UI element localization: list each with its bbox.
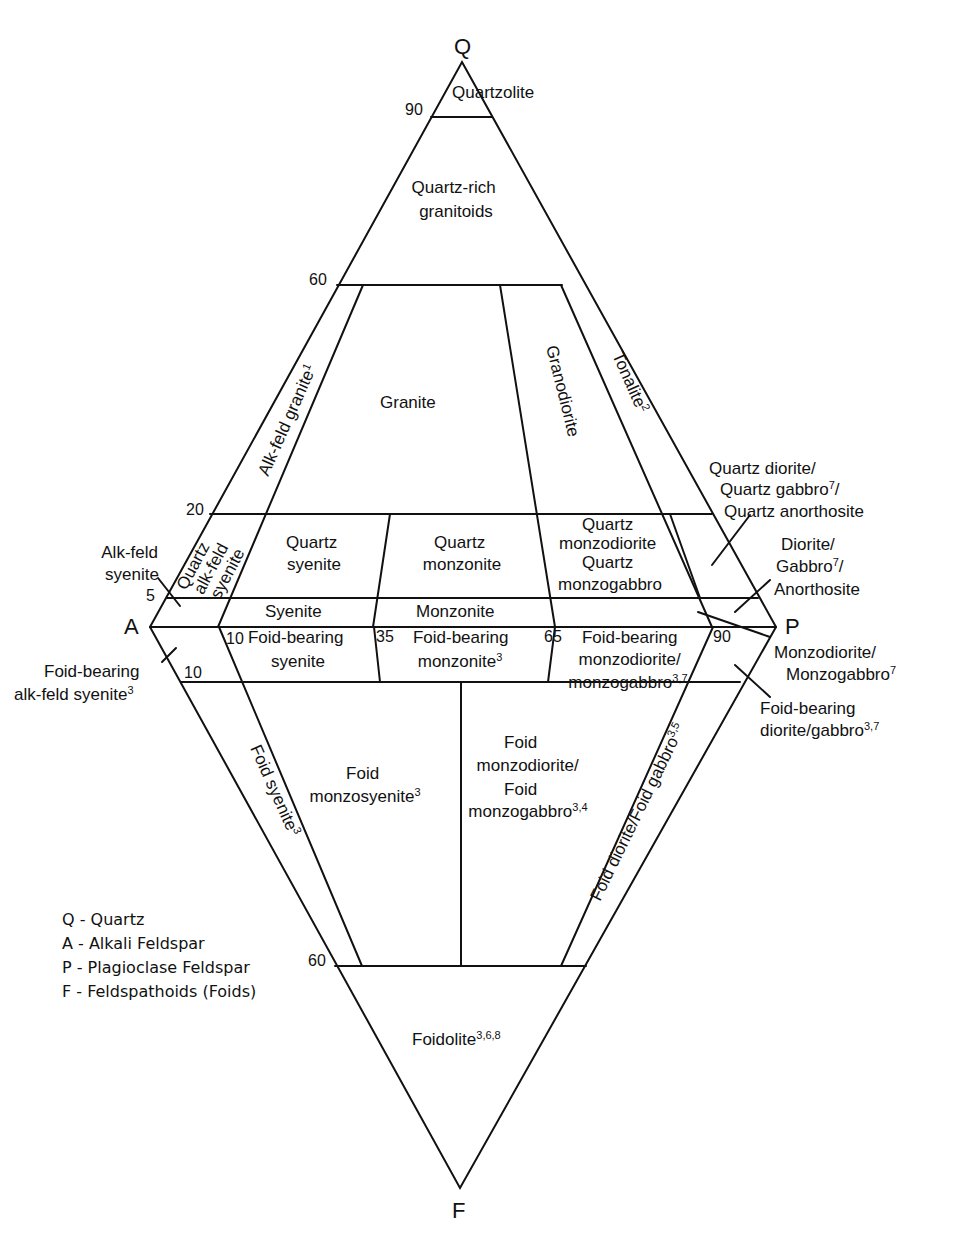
field-foid-bearing-monzodiorite: Foid-bearing monzodiorite/ monzogabbro3,… xyxy=(568,628,687,692)
tick-q60: 60 xyxy=(309,271,327,288)
qapf-diagram: Q A P F 90 60 20 5 10 35 65 90 10 60 Qua… xyxy=(0,0,956,1238)
callout-foid-bearing-alk-feld-syenite: Foid-bearing alk-feld syenite3 xyxy=(14,662,144,704)
field-foid-syenite: Foid syenite3 xyxy=(246,741,304,838)
tick-p35: 35 xyxy=(376,628,394,645)
field-quartz-rich-granitoids: Quartz-rich granitoids xyxy=(412,178,501,221)
callout-monzodiorite: Monzodiorite/ Monzogabbro7 xyxy=(774,643,896,684)
field-foid-bearing-syenite: Foid-bearing syenite xyxy=(248,628,348,671)
field-foid-monzodiorite: Foid monzodiorite/ Foid monzogabbro3,4 xyxy=(468,733,587,821)
field-granodiorite: Granodiorite xyxy=(542,343,583,438)
mineral-legend: Q - Quartz A - Alkali Feldspar P - Plagi… xyxy=(62,908,256,1004)
vertex-a: A xyxy=(124,614,139,639)
vertex-f: F xyxy=(452,1198,465,1223)
field-foidolite: Foidolite3,6,8 xyxy=(412,1029,501,1049)
field-quartz-syenite: Quartz syenite xyxy=(286,533,342,574)
tick-p10: 10 xyxy=(226,630,244,647)
field-quartz-monzodiorite: Quartz monzodiorite Quartz monzogabbro xyxy=(558,515,662,594)
legend-item-p: P - Plagioclase Feldspar xyxy=(62,956,256,980)
legend-item-a: A - Alkali Feldspar xyxy=(62,932,256,956)
callout-foid-bearing-diorite: Foid-bearing diorite/gabbro3,7 xyxy=(760,699,879,740)
field-quartz-alk-feld-syenite: Quartz alk-feld syenite xyxy=(173,528,250,609)
field-syenite: Syenite xyxy=(265,602,322,621)
tick-q5: 5 xyxy=(146,587,155,604)
callout-quartz-diorite: Quartz diorite/ Quartz gabbro7/ Quartz a… xyxy=(709,459,864,521)
callout-alk-feld-syenite: Alk-feld syenite xyxy=(101,543,162,584)
tick-p90: 90 xyxy=(713,628,731,645)
field-foid-bearing-monzonite: Foid-bearing monzonite3 xyxy=(413,628,513,671)
vertex-q: Q xyxy=(454,34,471,59)
field-labels: Quartzolite Quartz-rich granitoids Alk-f… xyxy=(173,83,689,1049)
tick-p65: 65 xyxy=(544,628,562,645)
field-foid-monzosyenite: Foid monzosyenite3 xyxy=(309,764,420,806)
tick-q20: 20 xyxy=(186,501,204,518)
legend-item-q: Q - Quartz xyxy=(62,908,256,932)
diagram-outline xyxy=(150,62,776,1188)
field-monzonite: Monzonite xyxy=(416,602,494,621)
field-quartzolite: Quartzolite xyxy=(452,83,534,102)
field-quartz-monzonite: Quartz monzonite xyxy=(423,533,501,574)
legend-item-f: F - Feldspathoids (Foids) xyxy=(62,980,256,1004)
vertex-p: P xyxy=(785,614,800,639)
tick-f60: 60 xyxy=(308,952,326,969)
callout-diorite-gabbro-anorthosite: Diorite/ Gabbro7/ Anorthosite xyxy=(774,535,860,599)
field-granite: Granite xyxy=(380,393,436,412)
field-foid-diorite-gabbro: Foid diorite/Foid gabbro3,5 xyxy=(586,720,689,904)
tick-f10: 10 xyxy=(184,664,202,681)
tick-q90: 90 xyxy=(405,101,423,118)
